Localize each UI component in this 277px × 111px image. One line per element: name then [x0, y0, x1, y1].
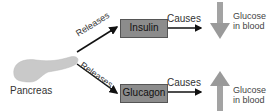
glucose-label-top: Glucose in blood [233, 11, 266, 31]
glucagon-box: Glucagon [120, 84, 168, 103]
glucose-label-line2: in blood [233, 21, 266, 31]
causes-label-glucagon: Causes [167, 77, 201, 88]
pancreas-icon [14, 57, 78, 82]
insulin-box: Insulin [120, 19, 168, 38]
pancreas-label: Pancreas [10, 85, 52, 96]
causes-label-insulin: Causes [167, 13, 201, 24]
glucose-label-bottom: Glucose in blood [233, 85, 266, 105]
up-arrow-icon [210, 71, 230, 111]
glucose-label-line1: Glucose [233, 85, 266, 95]
glucose-label-line2: in blood [233, 95, 266, 105]
down-arrow-icon [210, 2, 230, 39]
glucose-label-line1: Glucose [233, 11, 266, 21]
